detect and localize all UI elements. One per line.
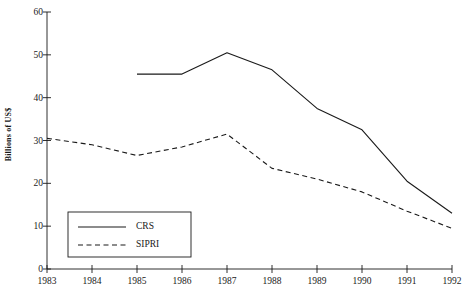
tick-marks — [43, 12, 452, 273]
legend-label-sipri: SIPRI — [136, 239, 159, 250]
plot-area — [0, 0, 472, 300]
legend — [68, 212, 191, 257]
series-lines — [47, 53, 452, 229]
axis-lines — [47, 12, 452, 269]
series-line-crs — [137, 53, 452, 214]
legend-label-crs: CRS — [136, 221, 154, 232]
chart-figure: Billions of US$ 0102030405060 1983198419… — [0, 0, 472, 300]
series-line-sipri — [47, 134, 452, 228]
